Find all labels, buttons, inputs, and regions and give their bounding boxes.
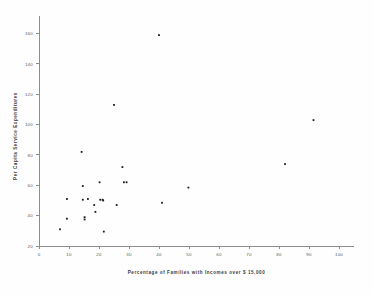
data-point <box>313 119 315 121</box>
y-tick-label: 140 <box>25 62 33 67</box>
y-tick-label: 80 <box>28 153 34 158</box>
y-tick-label: 20 <box>28 244 34 249</box>
data-point <box>122 166 124 168</box>
x-axis-title: Percentage of Families with Incomes over… <box>128 270 266 275</box>
data-point <box>93 204 95 206</box>
y-tick-label: 160 <box>25 31 33 36</box>
x-tick-label: 90 <box>306 252 312 257</box>
x-tick-label: 40 <box>156 252 162 257</box>
data-point <box>95 211 97 213</box>
y-tick-label: 40 <box>28 213 34 218</box>
data-point <box>84 216 86 218</box>
x-tick-label: 20 <box>96 252 102 257</box>
data-point <box>99 181 101 183</box>
x-tick-label: 70 <box>246 252 252 257</box>
data-point <box>126 181 128 183</box>
data-point <box>116 204 118 206</box>
data-point <box>84 219 86 221</box>
x-tick-label: 30 <box>126 252 132 257</box>
data-point <box>87 198 89 200</box>
data-point <box>113 104 115 106</box>
data-point <box>102 200 104 202</box>
x-tick-label: 0 <box>38 252 41 257</box>
data-point <box>82 185 84 187</box>
data-point <box>158 34 160 36</box>
x-tick-label: 100 <box>335 252 343 257</box>
data-point <box>66 198 68 200</box>
x-tick-label: 80 <box>276 252 282 257</box>
data-point <box>161 202 163 204</box>
data-point <box>99 199 101 201</box>
data-point <box>81 151 83 153</box>
x-tick-label: 50 <box>186 252 192 257</box>
data-point <box>284 163 286 165</box>
y-axis-title: Per Capita Service Expenditures <box>13 92 18 180</box>
y-axis: 20406080100120140160 <box>25 16 39 249</box>
data-point <box>59 228 61 230</box>
y-tick-label: 100 <box>25 122 33 127</box>
data-point <box>188 187 190 189</box>
y-tick-label: 60 <box>28 183 34 188</box>
y-tick-label: 120 <box>25 92 33 97</box>
scatter-plot-figure: 20406080100120140160 0102030405060708090… <box>0 0 373 295</box>
x-tick-label: 10 <box>66 252 72 257</box>
x-tick-label: 60 <box>216 252 222 257</box>
data-point <box>82 199 84 201</box>
x-axis: 0102030405060708090100 <box>38 246 354 257</box>
data-point <box>103 231 105 233</box>
scatter-plot-canvas: 20406080100120140160 0102030405060708090… <box>0 0 373 295</box>
data-point <box>123 181 125 183</box>
data-points-layer <box>59 34 314 232</box>
data-point <box>66 218 68 220</box>
